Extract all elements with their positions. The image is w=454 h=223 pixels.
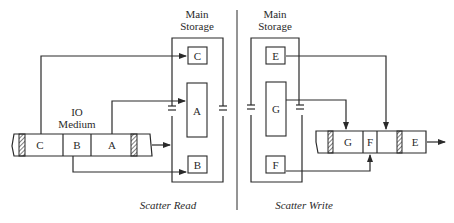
medium-segment-a: A xyxy=(108,139,116,151)
svg-text:G: G xyxy=(272,103,280,115)
svg-text:A: A xyxy=(193,105,201,117)
left-storage-title-line1: Main xyxy=(185,8,209,20)
left-storage-title-line2: Storage xyxy=(180,20,214,32)
scatter-write-panel: Main Storage E G F G xyxy=(247,8,445,211)
medium-segment-b: B xyxy=(73,139,80,151)
arrow-e-to-medium xyxy=(286,56,386,129)
medium-segment-c: C xyxy=(36,139,43,151)
scatter-write-caption: Scatter Write xyxy=(275,199,333,211)
arrow-f-to-medium xyxy=(286,155,370,171)
right-io-medium-tape: G F E xyxy=(316,131,426,153)
right-storage-block-g: G xyxy=(266,82,286,136)
medium-segment-g: G xyxy=(344,136,352,148)
right-storage-block-f: F xyxy=(266,156,285,173)
left-storage-block-c: C xyxy=(188,47,207,64)
svg-text:C: C xyxy=(194,50,201,62)
scatter-read-panel: Main Storage C A B IO Medium xyxy=(12,8,227,211)
arrow-b-to-storage xyxy=(73,156,186,172)
arrow-g-to-medium xyxy=(286,100,346,129)
scatter-read-write-diagram: Main Storage C A B IO Medium xyxy=(0,0,454,223)
left-io-medium-tape: C B A xyxy=(12,134,152,156)
right-storage-block-e: E xyxy=(266,47,285,64)
medium-segment-e: E xyxy=(412,136,419,148)
svg-text:E: E xyxy=(272,50,279,62)
right-storage-title-line1: Main xyxy=(263,8,287,20)
svg-text:F: F xyxy=(272,159,278,171)
left-storage-block-b: B xyxy=(188,156,207,173)
medium-segment-f: F xyxy=(367,136,373,148)
right-storage-title-line2: Storage xyxy=(258,20,292,32)
io-medium-title-line1: IO xyxy=(71,106,83,118)
io-medium-title-line2: Medium xyxy=(58,118,96,130)
svg-text:B: B xyxy=(194,159,201,171)
scatter-read-caption: Scatter Read xyxy=(140,199,197,211)
left-storage-block-a: A xyxy=(187,83,207,137)
